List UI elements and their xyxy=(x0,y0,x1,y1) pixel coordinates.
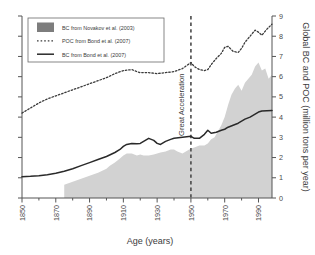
great-acceleration-label: Great Acceleration xyxy=(177,74,186,136)
x-tick-label: 1930 xyxy=(153,205,162,221)
y-axis-title: Global BC and POC (million tons per year… xyxy=(301,22,311,192)
x-tick-label: 1970 xyxy=(221,205,230,221)
figure-canvas: 0123456789 18501870189019101930195019701… xyxy=(0,0,315,255)
x-tick-label: 1990 xyxy=(254,205,263,221)
y-tick-label: 2 xyxy=(279,153,283,162)
y-tick-label: 7 xyxy=(279,52,283,61)
chart-screenshot: 0123456789 18501870189019101930195019701… xyxy=(0,0,315,255)
bc-poc-timeseries-chart: 0123456789 18501870189019101930195019701… xyxy=(0,0,315,255)
y-tick-label: 8 xyxy=(279,32,283,41)
y-tick-label: 6 xyxy=(279,72,283,81)
y-tick-label: 5 xyxy=(279,92,283,101)
y-tick-label: 9 xyxy=(279,12,283,21)
legend-label-poc: POC from Bond et al. (2007) xyxy=(62,38,131,44)
legend-label-novakov: BC from Novakov et al. (2003) xyxy=(62,25,135,31)
y-tick-label: 1 xyxy=(279,173,283,182)
chart-legend: BC from Novakov et al. (2003) POC from B… xyxy=(28,18,164,62)
y-tick-label: 0 xyxy=(279,194,283,203)
x-tick-label: 1910 xyxy=(119,205,128,221)
y-tick-label: 3 xyxy=(279,133,283,142)
x-tick-label: 1850 xyxy=(18,205,27,221)
x-tick-label: 1890 xyxy=(85,205,94,221)
legend-swatch-novakov xyxy=(37,23,54,33)
x-tick-label: 1870 xyxy=(52,205,61,221)
chart-svg-container: 0123456789 18501870189019101930195019701… xyxy=(0,0,315,255)
x-tick-label: 1950 xyxy=(187,205,196,221)
y-tick-label: 4 xyxy=(279,113,283,122)
x-axis-title: Age (years) xyxy=(127,236,174,246)
legend-label-bc: BC from Bond et al. (2007) xyxy=(62,52,126,58)
